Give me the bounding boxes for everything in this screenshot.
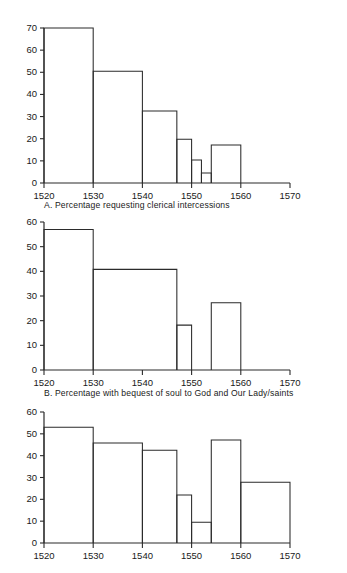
y-tick-label: 0 xyxy=(32,364,37,375)
x-tick-label: 1520 xyxy=(33,190,54,200)
histogram-bar xyxy=(93,71,142,183)
y-tick-label: 0 xyxy=(32,177,37,188)
histogram-bar xyxy=(142,450,176,543)
x-tick-label: 1570 xyxy=(279,377,300,388)
x-tick-label: 1570 xyxy=(279,190,300,200)
x-tick-label: 1520 xyxy=(33,550,54,561)
histogram-bar xyxy=(177,495,192,543)
y-tick-label: 60 xyxy=(26,406,37,417)
panel-c: 0102030405060152015301540155015601570 xyxy=(0,398,347,566)
x-tick-label: 1540 xyxy=(132,377,153,388)
y-tick-label: 40 xyxy=(26,450,37,461)
y-tick-label: 20 xyxy=(26,133,37,144)
x-tick-label: 1560 xyxy=(230,377,251,388)
x-tick-label: 1570 xyxy=(279,550,300,561)
x-tick-label: 1560 xyxy=(230,550,251,561)
figure-root: 010203040506070152015301540155015601570 … xyxy=(0,0,347,573)
histogram-bar xyxy=(142,111,176,183)
x-tick-label: 1530 xyxy=(83,377,104,388)
y-tick-label: 0 xyxy=(32,537,37,548)
histogram-bar xyxy=(177,139,192,183)
chart-a: 010203040506070152015301540155015601570 xyxy=(0,0,347,200)
chart-c-svg: 0102030405060152015301540155015601570 xyxy=(0,398,347,566)
histogram-bar xyxy=(44,229,93,370)
x-tick-label: 1540 xyxy=(132,550,153,561)
chart-b: 0102030405060152015301540155015601570 xyxy=(0,210,347,388)
histogram-bar xyxy=(192,160,202,183)
x-tick-label: 1520 xyxy=(33,377,54,388)
y-tick-label: 40 xyxy=(26,265,37,276)
y-tick-label: 50 xyxy=(26,66,37,77)
chart-b-svg: 0102030405060152015301540155015601570 xyxy=(0,210,347,388)
y-tick-label: 20 xyxy=(26,315,37,326)
x-tick-label: 1550 xyxy=(181,377,202,388)
caption-b: B. Percentage with bequest of soul to Go… xyxy=(0,388,347,398)
y-tick-label: 30 xyxy=(26,111,37,122)
y-tick-label: 30 xyxy=(26,290,37,301)
y-tick-label: 60 xyxy=(26,44,37,55)
panel-a: 010203040506070152015301540155015601570 … xyxy=(0,0,347,210)
y-tick-label: 60 xyxy=(26,216,37,227)
x-tick-label: 1530 xyxy=(83,550,104,561)
x-tick-label: 1550 xyxy=(181,190,202,200)
chart-a-svg: 010203040506070152015301540155015601570 xyxy=(0,0,347,200)
histogram-bar xyxy=(211,145,241,183)
caption-a: A. Percentage requesting clerical interc… xyxy=(0,200,347,210)
y-tick-label: 30 xyxy=(26,472,37,483)
histogram-bar xyxy=(192,522,212,543)
x-tick-label: 1560 xyxy=(230,190,251,200)
histogram-bar xyxy=(177,325,192,370)
y-tick-label: 20 xyxy=(26,493,37,504)
histogram-bar xyxy=(93,443,142,543)
x-tick-label: 1540 xyxy=(132,190,153,200)
histogram-bar xyxy=(211,303,241,370)
x-tick-label: 1550 xyxy=(181,550,202,561)
histogram-bar xyxy=(241,482,290,543)
histogram-bar xyxy=(93,269,177,370)
y-tick-label: 50 xyxy=(26,428,37,439)
histogram-bar xyxy=(44,28,93,183)
x-tick-label: 1530 xyxy=(83,190,104,200)
chart-c: 0102030405060152015301540155015601570 xyxy=(0,398,347,566)
y-tick-label: 10 xyxy=(26,155,37,166)
histogram-bar xyxy=(201,173,211,183)
panel-b: 0102030405060152015301540155015601570 B.… xyxy=(0,210,347,398)
y-tick-label: 70 xyxy=(26,22,37,33)
histogram-bar xyxy=(211,440,241,543)
y-tick-label: 40 xyxy=(26,88,37,99)
y-tick-label: 50 xyxy=(26,241,37,252)
histogram-bar xyxy=(44,427,93,543)
y-tick-label: 10 xyxy=(26,339,37,350)
y-tick-label: 10 xyxy=(26,515,37,526)
